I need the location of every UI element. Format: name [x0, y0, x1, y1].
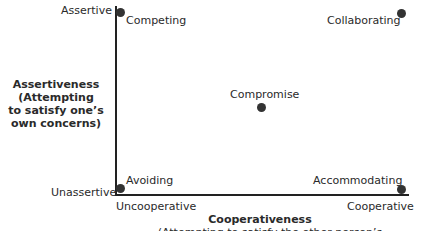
point-label-avoiding: Avoiding — [126, 174, 173, 187]
point-avoiding — [116, 184, 125, 193]
x-axis-title: Cooperativeness — [200, 213, 320, 226]
y-tick-unassertive: Unassertive — [51, 186, 116, 199]
x-tick-cooperative: Cooperative — [347, 200, 414, 213]
x-tick-uncooperative: Uncooperative — [116, 200, 196, 213]
y-axis-line — [115, 6, 117, 196]
y-title-line: to satisfy one’s — [0, 104, 112, 117]
y-title-line: (Attempting — [0, 91, 112, 104]
y-tick-assertive: Assertive — [61, 4, 112, 17]
point-competing — [116, 8, 125, 17]
point-label-compromise: Compromise — [230, 88, 299, 101]
point-label-competing: Competing — [126, 14, 186, 27]
x-axis-line — [115, 194, 409, 196]
y-title-line: Assertiveness — [0, 78, 112, 91]
point-compromise — [257, 103, 266, 112]
y-title-line: own concerns) — [0, 117, 112, 130]
point-label-accommodating: Accommodating — [313, 174, 402, 187]
point-label-collaborating: Collaborating — [327, 14, 401, 27]
y-axis-title: Assertiveness (Attempting to satisfy one… — [0, 78, 112, 130]
x-axis-subtitle: (Attempting to satisfy the other person’… — [150, 226, 390, 231]
